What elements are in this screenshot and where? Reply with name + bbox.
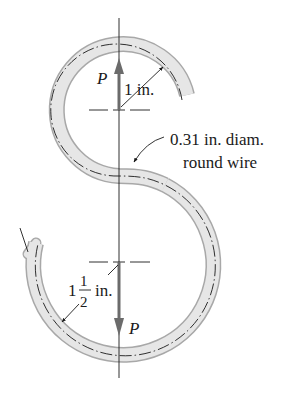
wire-leader-arrow: [134, 137, 164, 162]
radius-bottom-arrow: [62, 304, 79, 322]
tip-line: [20, 228, 28, 252]
s-hook-wire: [28, 44, 215, 356]
radius-bottom-whole: 1: [68, 281, 77, 300]
radius-bottom-numerator: 1: [80, 273, 88, 289]
wire-label-line2: round wire: [183, 153, 257, 172]
radius-top-label: 1 in.: [124, 80, 154, 99]
s-hook-diagram: P P 1 in. 1 1 2 in. 0.31 in. diam. round…: [0, 0, 299, 394]
load-label-bottom: P: [128, 319, 139, 338]
load-label-top: P: [96, 69, 107, 88]
radius-bottom-leader: [108, 265, 118, 275]
radius-bottom-denominator: 2: [80, 294, 88, 310]
load-arrow-down: [114, 262, 124, 336]
wire-label-line1: 0.31 in. diam.: [170, 130, 264, 149]
load-arrow-up: [114, 58, 124, 110]
radius-bottom-unit: in.: [95, 281, 112, 300]
